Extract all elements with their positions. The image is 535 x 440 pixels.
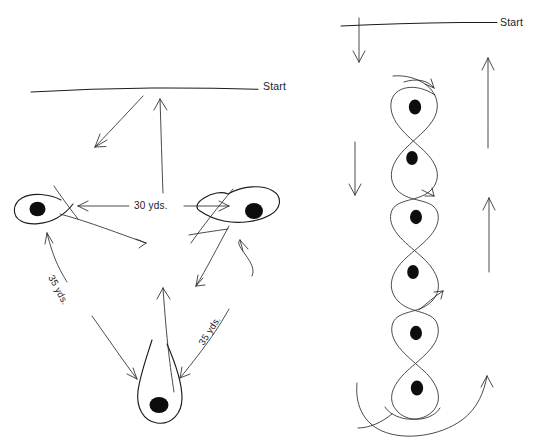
arrow-down-lower xyxy=(349,142,361,195)
arrow-up-upper xyxy=(482,58,494,148)
serpentine-drill-group xyxy=(341,18,497,436)
drill-illustration xyxy=(0,0,535,440)
triangle-drill-group xyxy=(14,88,279,423)
cone-left xyxy=(14,186,78,224)
path-left-to-center xyxy=(60,214,146,248)
arrow-start-to-left-cone xyxy=(95,96,143,147)
weave-cone-1 xyxy=(409,100,421,115)
arrow-up-lower xyxy=(483,198,495,272)
measure-arrow-right xyxy=(180,240,253,378)
start-line-right xyxy=(341,22,497,26)
weave-cone-6 xyxy=(411,381,423,396)
weave-cone-5 xyxy=(410,326,422,340)
start-line-left xyxy=(31,88,258,92)
serpentine-path xyxy=(357,76,493,436)
path-bottom-to-center xyxy=(157,288,174,392)
start-label-right: Start xyxy=(500,16,523,28)
arrow-return-to-start xyxy=(154,99,167,193)
measure-arrow-left xyxy=(45,233,137,379)
measure-label-30-yds: 30 yds. xyxy=(134,200,168,211)
weave-cone-4 xyxy=(407,265,419,279)
cone-right xyxy=(189,187,279,243)
weave-cone-3 xyxy=(410,210,422,224)
weave-cone-2 xyxy=(406,151,418,165)
weave-cones xyxy=(406,100,423,396)
drill-sheet: Start 30 yds. 35 yds. 35 yds. Start xyxy=(0,0,535,440)
cone-bottom xyxy=(138,340,182,423)
path-right-to-center xyxy=(196,226,229,286)
start-label-left: Start xyxy=(263,80,286,92)
